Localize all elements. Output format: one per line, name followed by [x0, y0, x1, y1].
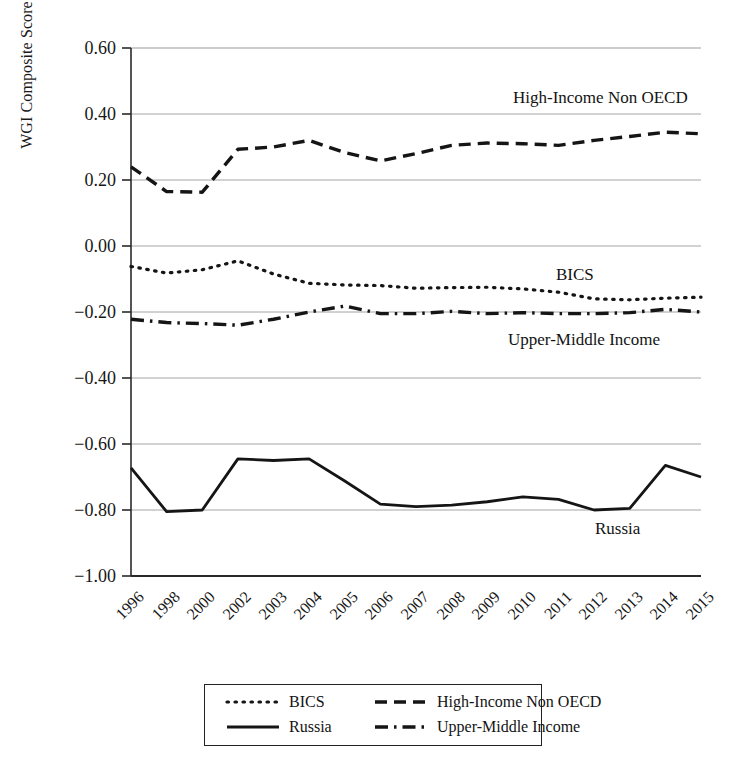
y-axis-tick-label: 0.60: [52, 39, 116, 57]
series-inline-label: BICS: [556, 265, 594, 285]
y-axis-tick-label: 0.40: [52, 105, 116, 123]
legend-label: BICS: [289, 693, 325, 711]
legend-label: High-Income Non OECD: [437, 693, 601, 711]
legend-label: Upper-Middle Income: [437, 718, 580, 736]
series-inline-label: Russia: [595, 519, 640, 539]
series-line-upper-middle-income: [131, 306, 701, 325]
series-inline-label: High-Income Non OECD: [513, 88, 688, 108]
legend-line-swatch: [373, 695, 429, 709]
series-line-bics: [131, 261, 701, 300]
y-axis-tick-label: −0.60: [52, 435, 116, 453]
y-axis-tick-label: −0.20: [52, 303, 116, 321]
y-axis-tick-label: −0.40: [52, 369, 116, 387]
series-inline-label: Upper-Middle Income: [508, 330, 660, 350]
legend-item: High-Income Non OECD: [373, 691, 601, 713]
y-axis-tick-labels: 0.600.400.200.00−0.20−0.40−0.60−0.80−1.0…: [42, 0, 116, 773]
legend-line-swatch: [373, 720, 429, 734]
legend-item: BICS: [225, 691, 325, 713]
chart-legend: BICSHigh-Income Non OECDRussiaUpper-Midd…: [204, 684, 542, 746]
y-axis-tick-label: 0.00: [52, 237, 116, 255]
legend-label: Russia: [289, 718, 332, 736]
legend-item: Russia: [225, 716, 332, 738]
y-axis-tick-label: −1.00: [52, 567, 116, 585]
y-axis-tick-label: −0.80: [52, 501, 116, 519]
y-axis-tick-label: 0.20: [52, 171, 116, 189]
series-line-high-income-non-oecd: [131, 132, 701, 192]
legend-item: Upper-Middle Income: [373, 716, 580, 738]
series-line-russia: [131, 459, 701, 512]
wgi-composite-score-chart: WGI Composite Score 0.600.400.200.00−0.2…: [0, 0, 742, 773]
legend-line-swatch: [225, 720, 281, 734]
y-axis-title: WGI Composite Score: [18, 0, 36, 205]
legend-line-swatch: [225, 695, 281, 709]
